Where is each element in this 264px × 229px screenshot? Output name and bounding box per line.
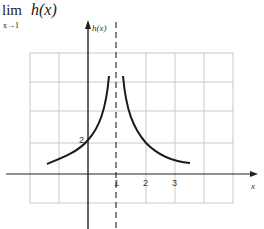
curve-right-branch [123, 76, 190, 163]
y-axis-arrow-icon [85, 20, 91, 29]
grid [30, 53, 233, 203]
chart-canvas: h(x) x 1 2 3 2 [0, 0, 264, 229]
x-axis-label: x [250, 181, 255, 191]
y-axis [85, 20, 91, 229]
x-tick-3: 3 [172, 178, 177, 188]
x-axis-arrow-icon [250, 171, 258, 177]
y-tick-2: 2 [79, 135, 84, 145]
grid-border [30, 53, 233, 203]
curve-left-branch [47, 76, 109, 164]
x-axis [6, 171, 258, 177]
x-tick-2: 2 [143, 178, 148, 188]
y-axis-label: h(x) [92, 23, 107, 33]
x-tick-1: 1 [114, 178, 119, 188]
